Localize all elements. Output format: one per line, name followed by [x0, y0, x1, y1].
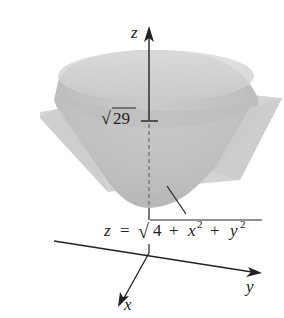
equation-lhs: z: [103, 221, 111, 240]
equation-x-exponent: 2: [197, 218, 203, 230]
equation-const: 4: [153, 221, 162, 240]
y-axis: [54, 241, 252, 272]
equation-y-exponent: 2: [240, 218, 246, 230]
equation-y: y: [228, 221, 238, 240]
equation-x: x: [187, 221, 196, 240]
equation-radical: √: [138, 220, 149, 242]
equation-plus-2: +: [210, 221, 220, 240]
x-axis-label: x: [123, 295, 132, 314]
plane-level-radical: √: [101, 108, 111, 128]
y-axis-label: y: [244, 277, 254, 296]
equation-plus-1: +: [169, 221, 179, 240]
plane-level-value: 29: [113, 109, 130, 128]
z-axis-label: z: [130, 23, 138, 42]
equation-equals: =: [120, 221, 130, 240]
x-axis: [124, 253, 149, 298]
surface-plot-svg: z y x √ 29 z = √ 4 + x 2 + y 2: [0, 0, 284, 318]
surface-equation-label: z = √ 4 + x 2 + y 2: [103, 218, 262, 242]
surface-rim: [58, 50, 254, 102]
surface-figure: z y x √ 29 z = √ 4 + x 2 + y 2: [0, 0, 284, 318]
